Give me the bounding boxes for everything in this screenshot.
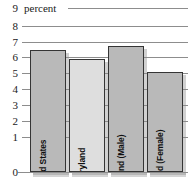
- plot-area: United States Maryland Maryland (Male) M…: [22, 8, 188, 172]
- bar-maryland[interactable]: Maryland: [69, 59, 105, 172]
- bar-slot-united-states: United States: [30, 8, 66, 172]
- y-axis-tick-4: 4: [0, 84, 18, 95]
- x-axis-baseline: [18, 172, 188, 173]
- bar-label-maryland-female: Maryland (Female): [156, 130, 165, 172]
- y-axis-tick-5: 5: [0, 68, 18, 79]
- bar-slot-maryland-female: Maryland (Female): [147, 8, 183, 172]
- y-axis-tick-2: 2: [0, 116, 18, 127]
- bar-label-united-states: United States: [39, 139, 48, 172]
- y-axis-tick-1: 1: [0, 132, 18, 143]
- y-axis-tick-8: 8: [0, 21, 18, 32]
- y-axis-tick-9: 9: [0, 3, 18, 14]
- y-axis-tick-3: 3: [0, 100, 18, 111]
- bar-chart: 9 8 7 6 5 4 3 2 1 0 percent United State…: [0, 0, 190, 185]
- y-axis-tick-0: 0: [0, 167, 18, 178]
- y-axis-tick-7: 7: [0, 37, 18, 48]
- bar-label-maryland: Maryland: [78, 148, 87, 172]
- bar-united-states[interactable]: United States: [30, 50, 66, 172]
- bar-maryland-male[interactable]: Maryland (Male): [108, 46, 144, 172]
- y-axis-tick-6: 6: [0, 52, 18, 63]
- bar-slot-maryland-male: Maryland (Male): [108, 8, 144, 172]
- bar-maryland-female[interactable]: Maryland (Female): [147, 72, 183, 172]
- bar-label-maryland-male: Maryland (Male): [117, 135, 126, 172]
- bar-slot-maryland: Maryland: [69, 8, 105, 172]
